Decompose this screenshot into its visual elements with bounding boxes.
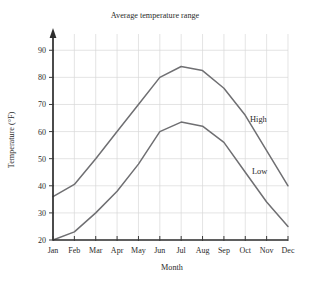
x-tick-label-jul: Jul <box>177 246 187 255</box>
data-series-group <box>53 67 288 240</box>
series-label-high: High <box>250 115 268 124</box>
x-tick-label-sep: Sep <box>218 246 230 255</box>
y-tick-label: 20 <box>38 236 46 245</box>
chart-title: Average temperature range <box>111 11 200 20</box>
gridlines <box>53 34 288 240</box>
x-axis-title: Month <box>161 263 183 272</box>
x-axis-tick-labels: JanFebMarAprMayJunJulAugSepOctNovDec <box>48 246 295 255</box>
temperature-range-chart: Average temperature range 20304050607080… <box>0 0 311 284</box>
y-tick-label: 90 <box>38 46 46 55</box>
y-tick-label: 80 <box>38 73 46 82</box>
x-tick-label-apr: Apr <box>111 246 124 255</box>
y-axis-arrowhead <box>50 28 57 38</box>
x-tick-label-jan: Jan <box>48 246 59 255</box>
series-label-low: Low <box>252 167 268 176</box>
x-tick-label-mar: Mar <box>89 246 103 255</box>
y-tick-label: 60 <box>38 128 46 137</box>
y-axis-ticks: 2030405060708090 <box>38 46 54 245</box>
series-annotations: HighLow <box>250 115 268 176</box>
y-tick-label: 50 <box>38 155 46 164</box>
x-tick-label-aug: Aug <box>196 246 210 255</box>
series-line-low <box>53 122 288 240</box>
y-tick-label: 40 <box>38 182 46 191</box>
y-tick-label: 30 <box>38 209 46 218</box>
x-tick-label-jun: Jun <box>154 246 165 255</box>
x-tick-label-may: May <box>131 246 146 255</box>
x-tick-label-oct: Oct <box>239 246 251 255</box>
y-axis-title: Temperature (°F) <box>7 111 16 168</box>
chart-svg: Average temperature range 20304050607080… <box>0 0 311 284</box>
x-tick-label-feb: Feb <box>68 246 80 255</box>
x-tick-label-dec: Dec <box>282 246 295 255</box>
x-tick-label-nov: Nov <box>260 246 274 255</box>
y-tick-label: 70 <box>38 100 46 109</box>
